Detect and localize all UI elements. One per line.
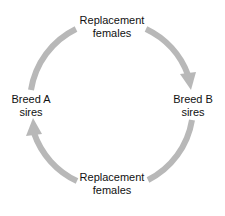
node-breed-a-sires: Breed A sires bbox=[6, 93, 56, 119]
node-replacement-females-top: Replacement females bbox=[62, 14, 162, 40]
node-label-line2: females bbox=[62, 27, 162, 40]
node-label-line1: Replacement bbox=[62, 171, 162, 184]
node-label-line1: Replacement bbox=[62, 14, 162, 27]
node-replacement-females-bottom: Replacement females bbox=[62, 171, 162, 197]
node-breed-b-sires: Breed B sires bbox=[168, 93, 218, 119]
arrowhead-down-icon bbox=[180, 72, 196, 90]
node-label-line2: sires bbox=[6, 106, 56, 119]
arrowhead-up-icon bbox=[26, 118, 42, 136]
node-label-line1: Breed B bbox=[168, 93, 218, 106]
node-label-line2: sires bbox=[168, 106, 218, 119]
node-label-line2: females bbox=[62, 184, 162, 197]
node-label-line1: Breed A bbox=[6, 93, 56, 106]
